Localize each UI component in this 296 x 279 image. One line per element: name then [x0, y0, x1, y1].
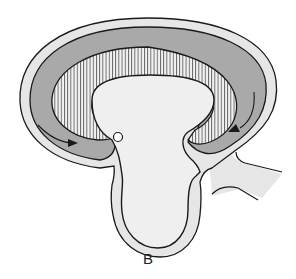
- diagram-figure: [0, 0, 296, 279]
- panel-label: B: [0, 250, 296, 267]
- small-circle: [114, 133, 123, 142]
